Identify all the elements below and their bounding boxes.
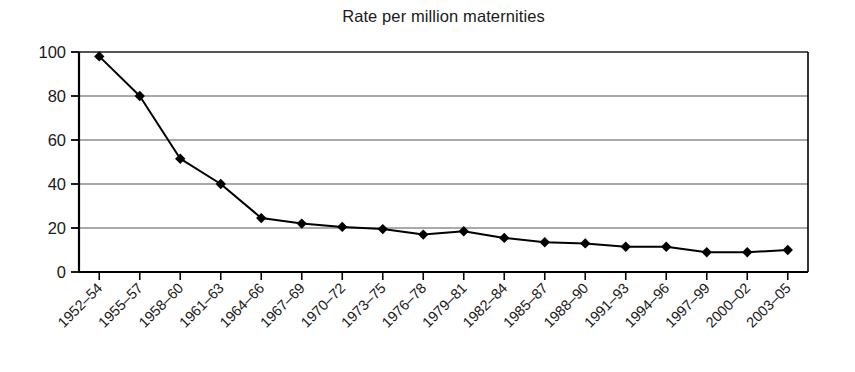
data-point-marker (337, 222, 347, 232)
gridlines-group (79, 52, 808, 228)
data-point-marker (540, 237, 550, 247)
cropped-edge-text (845, 14, 855, 94)
x-tick-marks-group (99, 272, 788, 280)
y-tick-label: 100 (38, 43, 66, 61)
x-tick-label: 2003–05 (743, 280, 794, 331)
data-point-marker (297, 218, 307, 228)
data-point-marker (661, 242, 671, 252)
data-point-marker (621, 242, 631, 252)
y-tick-label: 80 (48, 87, 66, 105)
data-point-marker (378, 224, 388, 234)
y-tick-label: 0 (57, 263, 66, 281)
data-series-line (99, 56, 788, 252)
chart-figure: Rate per million maternities 02040608010… (0, 0, 855, 372)
data-point-marker (418, 229, 428, 239)
y-tick-label: 60 (48, 131, 66, 149)
y-tick-labels-group: 020406080100 (38, 43, 66, 281)
data-point-marker (499, 233, 509, 243)
data-point-marker (742, 247, 752, 257)
line-chart-plot: 020406080100 1952–541955–571958–601961–6… (0, 0, 855, 372)
data-point-marker (580, 238, 590, 248)
data-point-marker (702, 247, 712, 257)
x-tick-labels-group: 1952–541955–571958–601961–631964–661967–… (55, 280, 794, 331)
data-point-marker (783, 245, 793, 255)
data-point-markers-group (94, 51, 793, 257)
y-tick-label: 20 (48, 219, 66, 237)
y-tick-marks-group (71, 52, 79, 272)
y-tick-label: 40 (48, 175, 66, 193)
data-point-marker (175, 154, 185, 164)
